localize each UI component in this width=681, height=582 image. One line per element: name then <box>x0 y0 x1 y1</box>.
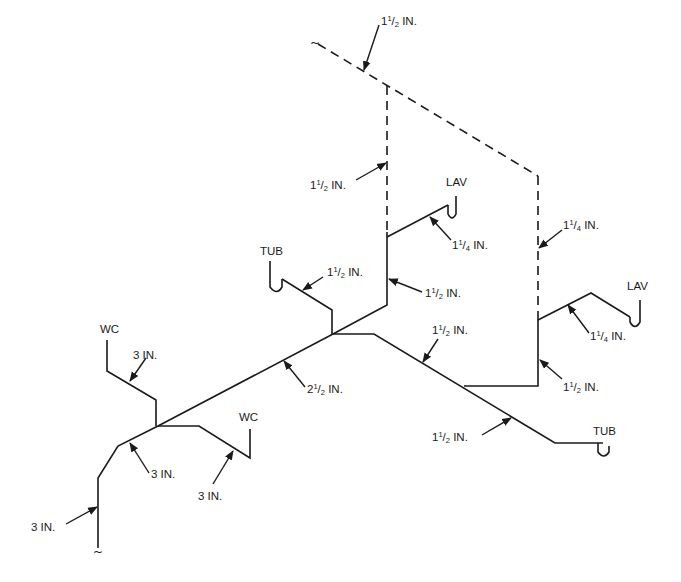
tub-lower-trap <box>598 443 609 456</box>
fixture-label-lav-upper: LAV <box>446 176 467 188</box>
arrow-main-drain-2half <box>284 361 305 387</box>
size-label-stack-right: 11/2 IN. <box>563 380 599 395</box>
size-label-wc-center-branch: 3 IN. <box>198 490 222 502</box>
tub-upper-trap <box>270 261 282 292</box>
pipe-break-bottom-icon: ~ <box>93 545 103 559</box>
size-label-building-drain: 3 IN. <box>31 521 55 533</box>
building-drain <box>98 426 158 548</box>
fixture-label-lav-right: LAV <box>627 280 648 292</box>
size-label-lav-right-branch: 11/4 IN. <box>590 329 626 344</box>
arrow-vent-top <box>364 25 379 70</box>
stack-right <box>464 312 538 386</box>
arrow-vent-riser-right <box>539 230 562 248</box>
arrow-lav-upper-branch <box>430 217 451 240</box>
size-label-wc-left-branch: 3 IN. <box>133 349 157 361</box>
fixture-label-tub-upper: TUB <box>260 245 283 257</box>
plumbing-riser-diagram: ~ ~ LAV LAV TUB TUB WC WC <box>0 0 681 582</box>
size-label-tub-upper-branch: 11/2 IN. <box>327 265 363 280</box>
size-labels: 11/2 IN. 11/2 IN. 11/4 IN. 11/2 IN. 11/2… <box>31 14 626 533</box>
lav-upper-trap <box>448 196 456 218</box>
arrow-horizontal-branch <box>423 339 438 362</box>
arrow-tub-upper-branch <box>303 277 323 290</box>
size-label-main-drain-2half: 21/2 IN. <box>307 382 343 397</box>
size-label-vent-riser-left: 11/2 IN. <box>310 178 346 193</box>
arrow-tub-lower-branch <box>482 418 511 435</box>
size-label-horizontal-branch: 11/2 IN. <box>432 323 468 338</box>
arrow-vent-riser-left <box>356 163 386 180</box>
size-label-tub-lower-branch: 11/2 IN. <box>432 430 468 445</box>
fixture-label-wc-center: WC <box>239 411 258 423</box>
vent-top-horizontal <box>318 44 538 176</box>
arrow-building-drain <box>66 507 97 524</box>
wc-center-branch <box>158 426 250 458</box>
arrow-stack-left <box>389 279 422 292</box>
arrow-lav-right-branch <box>568 305 589 333</box>
arrow-main-drain-3 <box>130 443 149 473</box>
arrow-stack-right <box>540 360 562 379</box>
pipe-break-top-icon: ~ <box>310 36 320 50</box>
size-label-main-drain-3: 3 IN. <box>151 468 175 480</box>
drain-piping <box>98 196 640 548</box>
fixture-label-wc-left: WC <box>100 323 119 335</box>
size-label-vent-top: 11/2 IN. <box>381 14 417 29</box>
stack-left <box>333 232 387 334</box>
lav-upper-branch <box>387 205 448 237</box>
size-label-vent-riser-right: 11/4 IN. <box>563 218 599 233</box>
fixture-label-tub-lower: TUB <box>593 425 616 437</box>
lav-right-trap <box>630 300 640 327</box>
arrow-wc-left-branch <box>130 358 146 381</box>
arrow-wc-center-branch <box>213 451 233 484</box>
size-label-stack-left: 11/2 IN. <box>425 286 461 301</box>
size-label-lav-upper-branch: 11/4 IN. <box>452 238 488 253</box>
lav-right-branch <box>538 293 630 320</box>
